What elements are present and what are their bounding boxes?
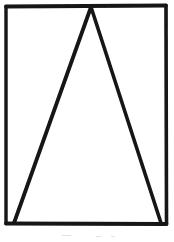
line-drawing-svg <box>0 0 174 242</box>
triangle-left-leg <box>14 7 91 223</box>
figure-caption <box>0 228 174 242</box>
triangle-right-leg <box>91 7 161 223</box>
rectangle-top-edge <box>6 6 166 7</box>
figure-canvas <box>0 0 174 242</box>
rectangle-bottom-edge <box>6 224 167 225</box>
inscribed-triangle <box>14 7 161 223</box>
outer-rectangle <box>6 6 167 225</box>
rectangle-right-edge <box>166 6 167 225</box>
